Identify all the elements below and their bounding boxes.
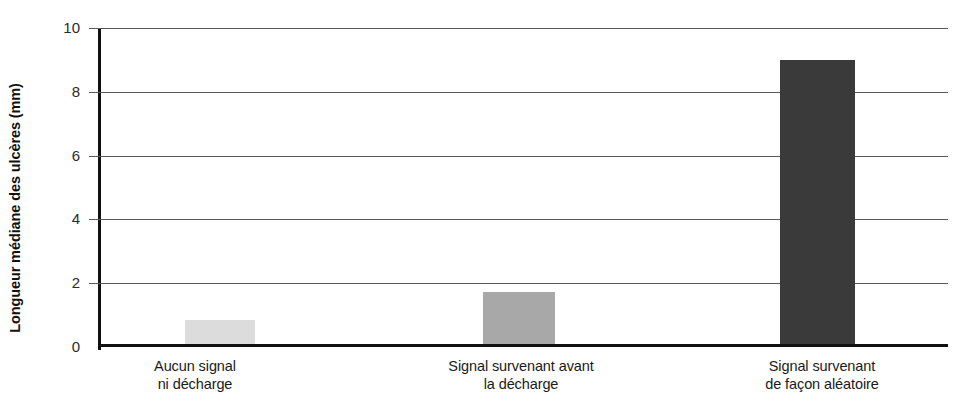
x-category-label-0-line2: ni décharge: [120, 376, 270, 394]
y-tick-label-4: 4: [46, 211, 80, 227]
x-category-label-2-line2: de façon aléatoire: [722, 376, 922, 394]
x-category-label-2: Signal survenant de façon aléatoire: [722, 358, 922, 393]
y-tick-label-2: 2: [46, 275, 80, 291]
y-tick-label-4-text: 4: [46, 211, 80, 226]
y-tick-label-8-text: 8: [46, 84, 80, 99]
y-axis-title: Longueur médiane des ulcères (mm): [0, 0, 30, 416]
y-tick-label-0: 0: [46, 339, 80, 355]
y-tick-mark-6: [89, 156, 98, 157]
x-category-label-1: Signal survenant avant la décharge: [406, 358, 636, 393]
x-category-label-1-line2: la décharge: [406, 376, 636, 394]
y-tick-mark-8: [89, 92, 98, 93]
bar-aucun-signal-ni-decharge: [185, 320, 255, 344]
y-tick-label-6: 6: [46, 148, 80, 164]
y-tick-label-10-text: 10: [46, 20, 80, 35]
y-tick-mark-4: [89, 219, 98, 220]
x-category-label-2-line1: Signal survenant: [769, 358, 875, 374]
y-tick-mark-10: [89, 28, 98, 29]
x-category-label-0: Aucun signal ni décharge: [120, 358, 270, 393]
y-tick-label-8: 8: [46, 84, 80, 100]
y-tick-label-10: 10: [46, 20, 80, 36]
x-category-label-1-line1: Signal survenant avant: [448, 358, 593, 374]
bar-signal-survenant-de-facon-aleatoire: [780, 60, 855, 344]
bar-chart: Longueur médiane des ulcères (mm) 10 8 6…: [0, 0, 962, 416]
y-tick-label-2-text: 2: [46, 275, 80, 290]
gridline-0-baseline: [98, 344, 948, 347]
y-tick-label-0-text: 0: [46, 339, 80, 354]
x-category-label-0-line1: Aucun signal: [154, 358, 236, 374]
bar-signal-survenant-avant-la-decharge: [483, 292, 555, 344]
y-tick-label-6-text: 6: [46, 148, 80, 163]
y-tick-mark-2: [89, 283, 98, 284]
gridline-10: [98, 28, 948, 29]
plot-area: [98, 28, 948, 347]
